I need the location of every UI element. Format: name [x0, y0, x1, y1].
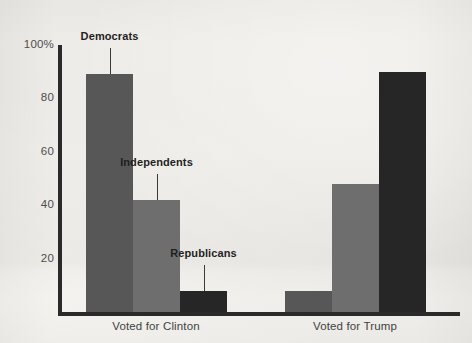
annotation-leader-line-republicans	[204, 265, 205, 291]
category-label-voted-for-trump: Voted for Trump	[313, 320, 397, 332]
bar-democrats-voted-for-trump[interactable]	[285, 291, 332, 312]
bar-republicans-voted-for-clinton[interactable]	[180, 291, 227, 312]
x-axis-line	[58, 312, 460, 316]
annotation-label-independents: Independents	[120, 156, 193, 168]
chart-plot-area: 100%80604020 Voted for ClintonVoted for …	[0, 0, 472, 343]
y-axis-tick-20: 20	[0, 253, 54, 265]
y-axis-line	[58, 45, 62, 316]
y-axis-tick-80: 80	[0, 93, 54, 105]
annotation-label-democrats: Democrats	[81, 30, 139, 42]
bar-republicans-voted-for-trump[interactable]	[379, 72, 426, 312]
annotation-leader-line-independents	[157, 174, 158, 200]
y-axis-tick-100: 100%	[0, 39, 54, 51]
y-axis-tick-60: 60	[0, 146, 54, 158]
chart-container: 100%80604020 Voted for ClintonVoted for …	[0, 0, 472, 343]
bar-independents-voted-for-trump[interactable]	[332, 184, 379, 312]
annotation-label-republicans: Republicans	[170, 247, 237, 259]
category-label-voted-for-clinton: Voted for Clinton	[112, 320, 200, 332]
bar-democrats-voted-for-clinton[interactable]	[86, 74, 133, 312]
annotation-leader-line-democrats	[110, 48, 111, 74]
y-axis-tick-labels: 100%80604020	[0, 0, 54, 343]
y-axis-tick-40: 40	[0, 199, 54, 211]
